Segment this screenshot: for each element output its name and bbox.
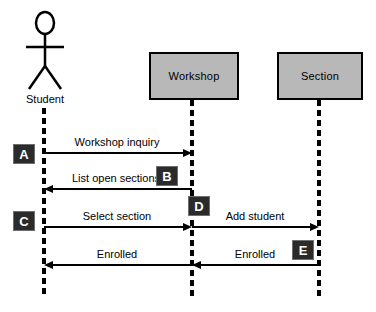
message-line-list-open-sections xyxy=(53,188,192,190)
participant-label-workshop: Workshop xyxy=(169,70,220,82)
message-line-enrolled-section-workshop xyxy=(201,264,319,266)
callout-marker-b-label: B xyxy=(162,169,171,184)
participant-box-workshop[interactable]: Workshop xyxy=(149,52,239,100)
callout-marker-a-label: A xyxy=(19,147,28,162)
callout-marker-c-label: C xyxy=(19,214,28,229)
actor-student xyxy=(20,10,70,99)
message-label-enrolled-workshop-student: Enrolled xyxy=(46,248,188,260)
callout-marker-d-label: D xyxy=(194,199,203,214)
arrow-head-list-open-sections xyxy=(44,185,53,193)
message-line-enrolled-workshop-student xyxy=(53,264,192,266)
message-label-add-student: Add student xyxy=(194,210,316,222)
callout-marker-e[interactable]: E xyxy=(292,240,314,260)
arrow-head-add-student xyxy=(310,223,319,231)
arrow-head-enrolled-section-workshop xyxy=(192,261,201,269)
callout-marker-a[interactable]: A xyxy=(13,144,35,164)
lifeline-section xyxy=(317,100,321,298)
arrow-head-select-section xyxy=(183,223,192,231)
message-line-workshop-inquiry xyxy=(44,152,183,154)
message-label-workshop-inquiry: Workshop inquiry xyxy=(46,136,188,148)
uml-sequence-diagram: Student Workshop Section Workshop inquir… xyxy=(0,0,376,312)
callout-marker-c[interactable]: C xyxy=(13,211,35,231)
stick-figure-icon xyxy=(20,10,70,95)
callout-marker-e-label: E xyxy=(299,243,308,258)
callout-marker-b[interactable]: B xyxy=(156,166,178,186)
actor-label-student: Student xyxy=(14,93,76,105)
arrow-head-workshop-inquiry xyxy=(183,149,192,157)
participant-box-section[interactable]: Section xyxy=(277,52,363,100)
message-line-select-section xyxy=(44,226,183,228)
message-line-add-student xyxy=(192,226,310,228)
message-label-select-section: Select section xyxy=(46,210,188,222)
arrow-head-enrolled-workshop-student xyxy=(44,261,53,269)
callout-marker-d[interactable]: D xyxy=(188,196,210,216)
participant-label-section: Section xyxy=(301,70,339,82)
